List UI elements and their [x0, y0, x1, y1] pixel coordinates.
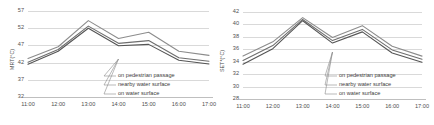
legend-item-label: on pedestrian passage	[118, 73, 175, 79]
legend-item-label: on water surface	[339, 91, 380, 97]
legend-item-label: on water surface	[118, 91, 159, 97]
legend-item-label: on pedestrian passage	[339, 73, 396, 79]
legend-item-label: nearby water surface	[118, 82, 170, 88]
legend-leader-line	[325, 52, 337, 76]
legend-leader-line	[104, 59, 119, 76]
legend-leader-line	[104, 59, 119, 85]
chart-panel-mrt: MRT(°C) 323742475257 11:0012:0013:0014:0…	[0, 0, 213, 125]
legend-leader-lines-right	[213, 0, 426, 125]
chart-panel-set: SET*(°C) 2830323436384042 11:0012:0013:0…	[213, 0, 426, 125]
legend-leader-lines-left	[0, 0, 213, 125]
legend-item-label: nearby water surface	[339, 82, 391, 88]
legend-leader-line	[104, 59, 119, 94]
